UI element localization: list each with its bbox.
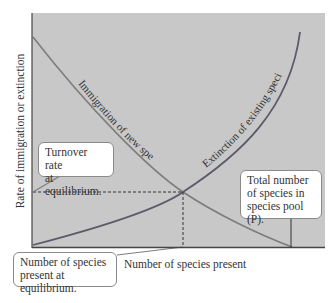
equilibrium-callout-line-2: present at equilibrium. [20,269,110,295]
x-axis-label: Number of species present [124,258,246,270]
turnover-callout-line-2: at equilibrium. [45,172,107,198]
pool-callout-line-1: Total number [247,174,315,187]
turnover-callout: Turnover rate at equilibrium. [38,142,114,177]
equilibrium-callout-line-1: Number of species [20,256,110,269]
pool-callout-line-3: species pool (P). [247,200,315,226]
y-axis-label: Rate of immigration or extinction [14,51,26,211]
pool-callout-line-2: of species in [247,187,315,200]
equilibrium-species-callout: Number of species present at equilibrium… [13,252,117,287]
turnover-callout-line-1: Turnover rate [45,146,107,172]
species-pool-callout: Total number of species in species pool … [240,170,322,219]
